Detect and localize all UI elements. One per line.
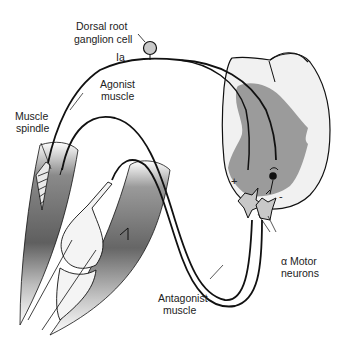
label-inhibitory-minus: - <box>279 190 283 202</box>
label-motor-line1: α Motor <box>281 255 317 267</box>
label-drg-line1: Dorsal root <box>76 20 127 32</box>
stretch-reflex-diagram <box>0 0 338 341</box>
label-ia: Ia <box>116 51 125 63</box>
dorsal-root-ganglion <box>138 34 157 60</box>
label-antagonist-line1: Antagonist <box>158 292 208 304</box>
label-antagonist-line2: muscle <box>163 304 196 316</box>
label-spindle-line2: spindle <box>16 122 49 134</box>
label-agonist-line1: Agonist <box>100 78 135 90</box>
label-motor-line2: neurons <box>281 267 319 279</box>
label-drg-line2: ganglion cell <box>74 33 132 45</box>
label-spindle-line1: Muscle <box>15 110 48 122</box>
label-excitatory-plus: + <box>231 175 237 187</box>
label-agonist-line2: muscle <box>101 90 134 102</box>
inhibitory-interneuron <box>269 172 277 180</box>
